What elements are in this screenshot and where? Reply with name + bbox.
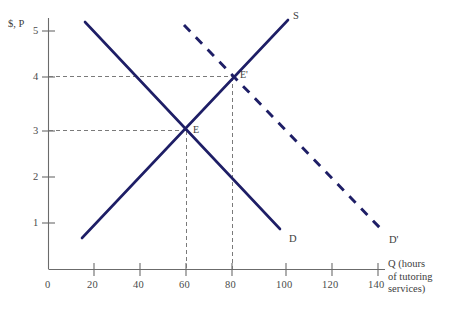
x-axis-title: Q (hours of tutoring services) (388, 258, 448, 296)
demand-curve (85, 22, 280, 229)
x-tick-label-40: 40 (133, 279, 144, 290)
supply-demand-figure: 5 4 3 2 1 0 20 40 60 80 100 120 140 $, P… (0, 0, 449, 311)
x-tick-label-120: 120 (322, 279, 338, 290)
x-tick-label-100: 100 (276, 279, 292, 290)
y-tick-label-3: 3 (33, 125, 38, 136)
y-tick-label-1: 1 (33, 217, 38, 228)
x-tick-label-60: 60 (179, 279, 190, 290)
supply-curve-label: S (293, 10, 299, 21)
demand-shifted-curve-label: D' (389, 234, 398, 245)
y-tick-label-2: 2 (33, 171, 38, 182)
equilibrium-label-e-prime: E' (240, 69, 248, 80)
x-axis-title-line1: Q (hours (388, 258, 425, 269)
y-axis-title: $, P (8, 18, 24, 29)
equilibrium-label-e: E (193, 124, 199, 135)
x-tick-label-140: 140 (368, 279, 384, 290)
plot-area (0, 0, 449, 311)
x-axis-title-line3: services) (388, 283, 425, 294)
y-tick-label-4: 4 (33, 71, 38, 82)
x-tick-label-80: 80 (225, 279, 236, 290)
x-tick-label-20: 20 (87, 279, 98, 290)
demand-curve-label: D (289, 233, 297, 244)
y-tick-label-5: 5 (33, 25, 38, 36)
x-tick-label-0: 0 (45, 279, 50, 290)
x-axis-title-line2: of tutoring (388, 271, 433, 282)
demand-shifted-curve (184, 25, 382, 230)
